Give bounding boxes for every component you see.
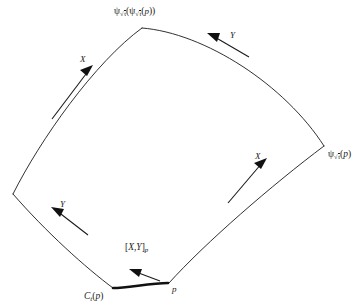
label-bottom-corner: Ct(p) bbox=[84, 292, 103, 303]
label-vector-x-lower-right: X bbox=[255, 152, 261, 161]
label-top-corner-close-outer: ) bbox=[152, 6, 155, 16]
label-bracket-sub-p: p bbox=[145, 246, 149, 254]
arrow-x-upper-left bbox=[52, 65, 93, 119]
label-right-corner-close: ) bbox=[348, 149, 351, 159]
edge-bracket-gap bbox=[113, 283, 168, 288]
label-vector-y-lower-left: Y bbox=[60, 200, 65, 209]
lie-bracket-figure bbox=[0, 0, 360, 308]
label-bracket: [X,Y]p bbox=[125, 243, 148, 254]
diagram-canvas: ψ√t(ψ√t(p)) ψ√t(p) Ct(p) p [X,Y]p X Y Y … bbox=[0, 0, 360, 308]
label-vector-x-upper-left: X bbox=[80, 55, 86, 64]
edge-top-right bbox=[142, 28, 324, 146]
edge-right-lower bbox=[169, 146, 324, 283]
arrow-bracket bbox=[129, 269, 160, 281]
arrow-y-upper-right bbox=[207, 33, 249, 57]
arrow-y-lower-left bbox=[51, 207, 88, 235]
label-base-point: p bbox=[172, 285, 177, 294]
edge-left-upper bbox=[13, 28, 142, 194]
label-bottom-corner-close: ) bbox=[100, 291, 103, 301]
label-vector-y-upper-right: Y bbox=[230, 31, 235, 40]
label-right-corner: ψ√t(p) bbox=[328, 150, 351, 161]
label-top-corner: ψ√t(ψ√t(p)) bbox=[114, 7, 155, 18]
